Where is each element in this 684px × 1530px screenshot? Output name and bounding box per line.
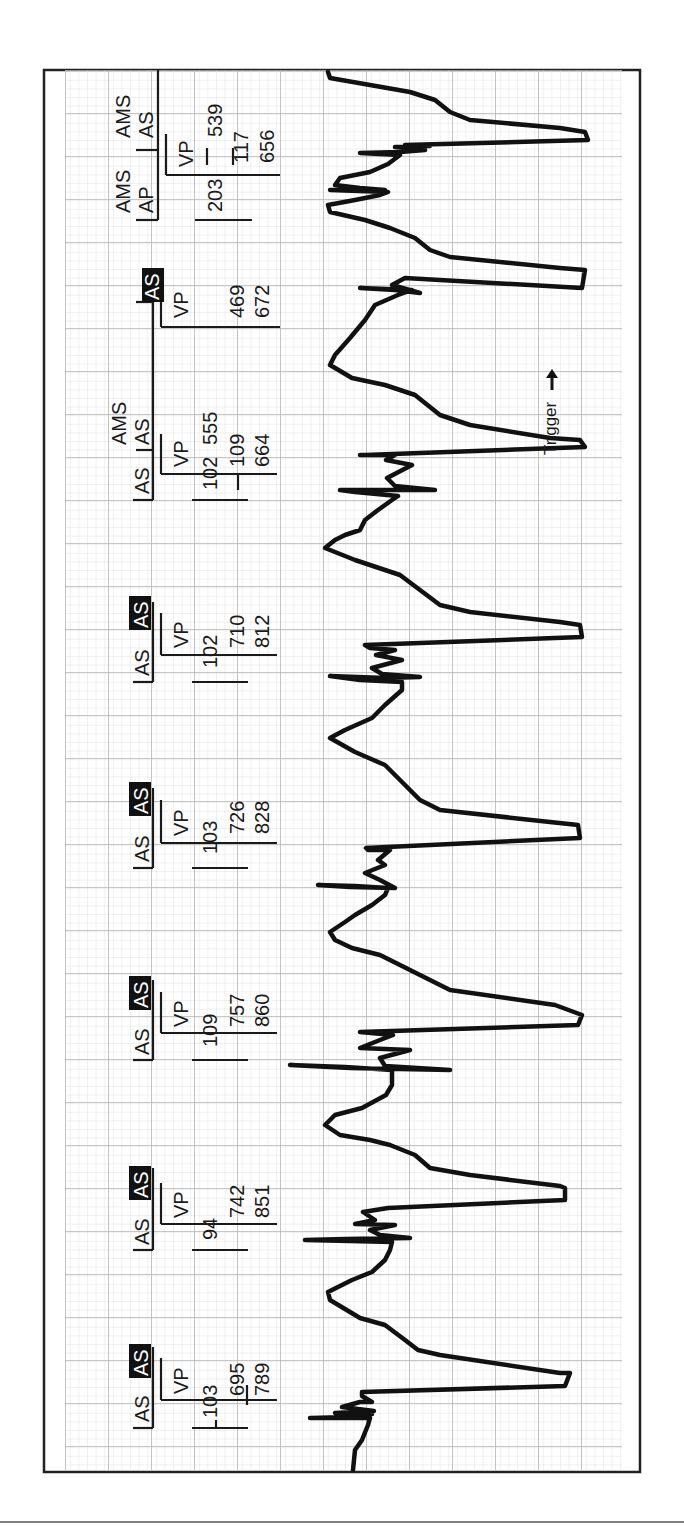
vv-interval: 664 — [251, 434, 273, 467]
av-interval: 203 — [204, 179, 226, 212]
av-interval: 102 — [199, 457, 221, 490]
vv-interval: 672 — [251, 285, 273, 318]
aa-interval: 757 — [226, 994, 248, 1027]
aa-interval: 555 — [199, 412, 221, 445]
av-interval: 103 — [199, 1385, 221, 1418]
svg-text:Trigger: Trigger — [541, 401, 560, 455]
atrial-sense-marker: AS — [135, 111, 157, 138]
ventricular-pace-marker: VP — [170, 440, 192, 467]
atrial-sense-marker: AS — [131, 467, 153, 494]
atrial-pace-marker: AP — [135, 186, 157, 213]
vv-interval: 860 — [251, 994, 273, 1027]
vv-interval: 789 — [251, 1363, 273, 1396]
trigger-label: Trigger — [541, 401, 560, 455]
ventricular-pace-marker: VP — [170, 1191, 192, 1218]
mode-switch-label: AMS — [108, 402, 130, 445]
ventricular-pace-marker: VP — [170, 1367, 192, 1394]
vv-interval: 828 — [251, 801, 273, 834]
atrial-sense-marker: AS — [131, 1028, 153, 1055]
aa-interval: 539 — [204, 104, 226, 137]
mode-switch-label: AMS — [112, 170, 134, 213]
av-interval: 94 — [199, 1218, 221, 1240]
atrial-sense-refractory-marker: AS — [141, 273, 163, 300]
aa-interval: 726 — [226, 801, 248, 834]
vv-interval: 656 — [256, 130, 278, 163]
ventricular-pace-marker: VP — [170, 291, 192, 318]
av-interval-2: 109 — [226, 434, 248, 467]
av-interval: 109 — [199, 1014, 221, 1047]
vv-interval: 812 — [251, 615, 273, 648]
rhythm-strip: Trigger AS AS VP 103 695 789 AS AS VP 94… — [0, 0, 684, 1530]
atrial-sense-refractory-marker: AS — [130, 981, 152, 1008]
av-interval: 103 — [199, 821, 221, 854]
av-interval: 102 — [199, 635, 221, 668]
atrial-sense-marker: AS — [131, 649, 153, 676]
mode-switch-label: AMS — [112, 95, 134, 138]
aa-interval: 695 — [226, 1363, 248, 1396]
aa-interval: 710 — [226, 615, 248, 648]
vv-interval: 851 — [251, 1185, 273, 1218]
ventricular-pace-marker: VP — [170, 621, 192, 648]
aa-interval: 742 — [226, 1185, 248, 1218]
atrial-sense-marker: AS — [131, 835, 153, 862]
atrial-sense-refractory-marker: AS — [130, 787, 152, 814]
aa-interval: 469 — [226, 285, 248, 318]
ventricular-pace-marker: VP — [170, 809, 192, 836]
atrial-sense-refractory-marker: AS — [130, 601, 152, 628]
atrial-sense-refractory-marker: AS — [130, 1171, 152, 1198]
ventricular-pace-marker: VP — [175, 140, 197, 167]
atrial-sense-marker: AS — [131, 1395, 153, 1422]
ventricular-pace-marker: VP — [170, 1000, 192, 1027]
atrial-sense-marker: AS — [131, 418, 153, 445]
atrial-sense-refractory-marker: AS — [130, 1349, 152, 1376]
av-interval-2: 117 — [230, 131, 252, 163]
atrial-sense-marker: AS — [131, 1218, 153, 1245]
